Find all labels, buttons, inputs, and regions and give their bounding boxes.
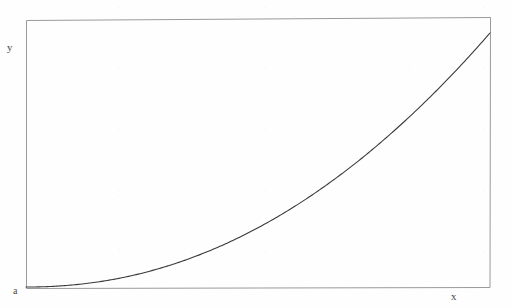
data-curve: [26, 33, 490, 287]
y-axis-label: y: [7, 42, 13, 53]
origin-label: a: [13, 286, 17, 296]
axis-bottom-border: [27, 288, 491, 289]
axis-right-border: [490, 18, 491, 288]
plot-svg: [0, 0, 511, 308]
axis-top-border: [27, 18, 491, 21]
axes-frame: [27, 18, 491, 289]
x-axis-label: x: [451, 291, 457, 302]
figure-canvas: y a x: [0, 0, 511, 308]
